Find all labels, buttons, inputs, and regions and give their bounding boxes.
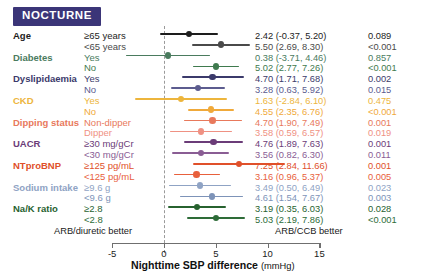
p-value: <0.001 — [368, 214, 430, 226]
forest-row: No5.02 (2.77, 7.26)<0.001 — [0, 61, 440, 72]
forest-plot-figure: NOCTURNE Age≥65 years2.42 (-0.37, 5.20)0… — [0, 0, 440, 276]
forest-row: <65 years5.50 (2.69, 8.30)<0.001 — [0, 40, 440, 51]
forest-row: CKDYes1.63 (-2.84, 6.10)0.475 — [0, 94, 440, 105]
forest-row: Na/K ratio≥2.83.19 (0.35, 6.03)0.028 — [0, 202, 440, 213]
right-direction-annotation: ARB/CCB better — [275, 226, 343, 236]
forest-row-list: Age≥65 years2.42 (-0.37, 5.20)0.089<65 y… — [0, 29, 440, 224]
x-axis-tick — [319, 243, 320, 248]
forest-row: <125 pg/mL3.16 (0.96, 5.37)0.005 — [0, 170, 440, 181]
forest-row: No4.55 (2.35, 6.76)<0.001 — [0, 105, 440, 116]
forest-row: NTproBNP≥125 pg/mL7.25 (2.84, 11.66)0.00… — [0, 159, 440, 170]
x-axis-title: Nighttime SBP difference (mmHg) — [131, 259, 295, 271]
x-axis-tick-label: -5 — [108, 248, 116, 260]
forest-row: DiabetesYes0.38 (-3.71, 4.46)0.857 — [0, 51, 440, 62]
page-title: NOCTURNE — [13, 7, 101, 26]
x-axis-tick — [164, 243, 165, 248]
x-axis-tick-label: 15 — [314, 248, 325, 260]
x-axis-unit: (mmHg) — [261, 261, 295, 271]
x-axis-tick — [112, 243, 113, 248]
forest-row: UACR≥30 mg/gCr4.76 (1.89, 7.63)0.001 — [0, 137, 440, 148]
subgroup-level-label: <2.8 — [84, 214, 103, 226]
forest-row: Sodium intake≥9.6 g3.49 (0.50, 6.49)0.02… — [0, 181, 440, 192]
x-axis-tick — [216, 243, 217, 248]
estimate-ci-value: 5.03 (2.19, 7.86) — [255, 214, 363, 226]
forest-row: <2.85.03 (2.19, 7.86)<0.001 — [0, 213, 440, 224]
left-direction-annotation: ARB/diuretic better — [54, 226, 132, 236]
x-axis-title-text: Nighttime SBP difference — [131, 259, 258, 271]
forest-row: Age≥65 years2.42 (-0.37, 5.20)0.089 — [0, 29, 440, 40]
forest-row: No3.28 (0.63, 5.92)0.015 — [0, 83, 440, 94]
forest-row: DyslipidaemiaYes4.70 (1.71, 7.68)0.002 — [0, 72, 440, 83]
forest-row: <30 mg/gCr3.56 (0.82, 6.30)0.011 — [0, 148, 440, 159]
forest-row: Dipping statusNon-dipper4.70 (1.90, 7.49… — [0, 116, 440, 127]
forest-row: <9.6 g4.61 (1.54, 7.67)0.003 — [0, 191, 440, 202]
x-axis-tick — [268, 243, 269, 248]
forest-row: Dipper3.58 (0.59, 6.57)0.019 — [0, 126, 440, 137]
